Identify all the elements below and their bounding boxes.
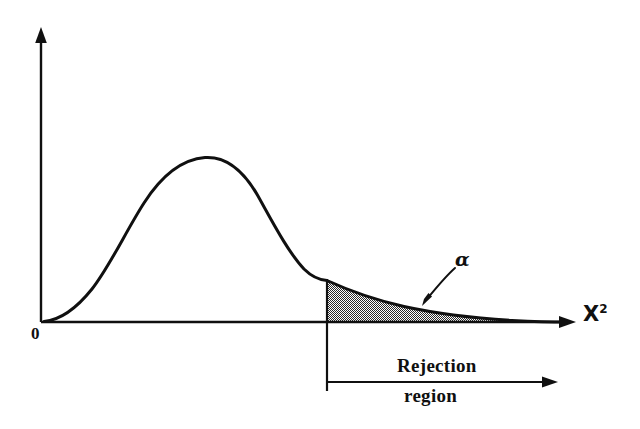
alpha-shaded-fill xyxy=(327,281,566,323)
alpha-leader-line xyxy=(427,268,455,299)
alpha-shaded-region xyxy=(327,281,566,323)
arrow-up-icon xyxy=(35,27,47,43)
chi-square-density-path xyxy=(44,157,566,322)
figure-canvas xyxy=(0,0,640,429)
y-axis xyxy=(35,27,47,322)
x-axis-label-base: X xyxy=(583,302,599,326)
x-axis-label-exponent: 2 xyxy=(599,302,607,316)
alpha-callout xyxy=(422,268,455,306)
rejection-region-label-line1: Rejection xyxy=(397,356,477,375)
alpha-symbol-label: α xyxy=(455,250,470,269)
distribution-curve xyxy=(44,157,566,322)
chi-square-rejection-region-figure: 0 X2 α Rejection region xyxy=(0,0,640,429)
origin-label: 0 xyxy=(31,325,40,342)
x-axis-label: X2 xyxy=(583,304,608,325)
rejection-region-label-line2: region xyxy=(404,386,457,405)
arrow-right-icon xyxy=(542,377,558,388)
